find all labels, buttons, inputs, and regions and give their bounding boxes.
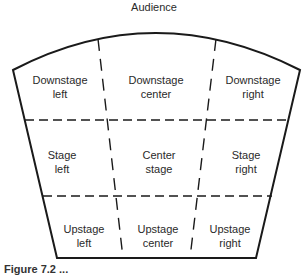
area-label-line1: Upstage (190, 222, 270, 236)
area-label-line2: left (22, 162, 102, 176)
area-label-line2: left (20, 87, 100, 101)
area-label-line1: Stage (206, 148, 286, 162)
figure-caption: Figure 7.2 ... (4, 262, 68, 276)
area-label-line2: right (190, 236, 270, 250)
area-label-line2: center (116, 87, 196, 101)
area-upstage-center: Upstage center (118, 222, 198, 250)
area-label-line1: Center (119, 148, 199, 162)
area-label-line2: center (118, 236, 198, 250)
area-label-line1: Stage (22, 148, 102, 162)
area-stage-right: Stage right (206, 148, 286, 176)
area-label-line1: Downstage (116, 73, 196, 87)
area-label-line2: right (206, 162, 286, 176)
area-label-line2: right (213, 87, 293, 101)
area-label-line1: Upstage (118, 222, 198, 236)
area-downstage-left: Downstage left (20, 73, 100, 101)
area-downstage-center: Downstage center (116, 73, 196, 101)
area-label-line1: Downstage (20, 73, 100, 87)
area-downstage-right: Downstage right (213, 73, 293, 101)
area-label-line2: stage (119, 162, 199, 176)
area-label-line1: Downstage (213, 73, 293, 87)
area-upstage-right: Upstage right (190, 222, 270, 250)
area-stage-left: Stage left (22, 148, 102, 176)
area-center-stage: Center stage (119, 148, 199, 176)
area-upstage-left: Upstage left (44, 222, 124, 250)
area-label-line1: Upstage (44, 222, 124, 236)
area-label-line2: left (44, 236, 124, 250)
